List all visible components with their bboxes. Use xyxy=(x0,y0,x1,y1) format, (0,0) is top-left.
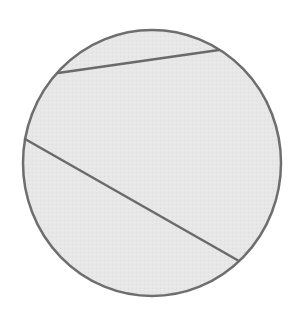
diagram-canvas xyxy=(0,0,298,315)
circle-diagram xyxy=(0,0,298,315)
circle-shape xyxy=(23,30,281,296)
